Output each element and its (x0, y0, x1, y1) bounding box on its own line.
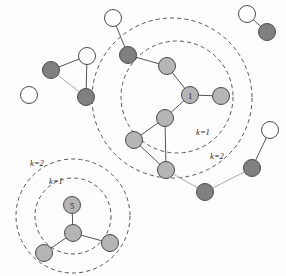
node-circle[interactable] (197, 184, 214, 201)
node-circle[interactable] (78, 89, 95, 106)
graph-node[interactable] (158, 162, 175, 179)
graph-node[interactable] (36, 245, 53, 262)
node-circle[interactable] (105, 10, 122, 27)
graph-nodes-layer: 15 (21, 6, 279, 262)
graph-node[interactable] (244, 160, 261, 177)
graph-node[interactable] (126, 132, 143, 149)
node-circle[interactable] (158, 162, 175, 179)
node-circle[interactable] (36, 245, 53, 262)
node-circle[interactable] (182, 87, 199, 104)
node-circle[interactable] (21, 87, 38, 104)
neighborhood-ring (35, 178, 111, 254)
node-circle[interactable] (157, 110, 174, 127)
graph-node[interactable] (259, 24, 276, 41)
ring-label: k=2 (30, 158, 45, 168)
graph-node[interactable] (79, 48, 96, 65)
graph-node[interactable] (197, 184, 214, 201)
graph-node[interactable] (78, 89, 95, 106)
ring-label: k=2 (210, 151, 225, 161)
graph-node[interactable] (21, 87, 38, 104)
graph-node[interactable] (239, 6, 256, 23)
node-circle[interactable] (213, 88, 230, 105)
node-circle[interactable] (79, 48, 96, 65)
node-circle[interactable] (262, 122, 279, 139)
ring-label: k=1 (49, 176, 63, 186)
graph-node[interactable] (120, 47, 137, 64)
node-circle[interactable] (65, 225, 82, 242)
node-circle[interactable] (239, 6, 256, 23)
neighborhood-ring (16, 159, 130, 273)
graph-node[interactable] (65, 225, 82, 242)
graph-svg: 15 k=1k=2k=1k=2 (0, 0, 286, 276)
diagram-canvas: 15 k=1k=2k=1k=2 (0, 0, 286, 276)
graph-node[interactable]: 1 (182, 87, 199, 104)
graph-node[interactable] (43, 62, 60, 79)
node-circle[interactable] (102, 235, 119, 252)
node-circle[interactable] (64, 197, 81, 214)
node-circle[interactable] (244, 160, 261, 177)
graph-node[interactable] (102, 235, 119, 252)
graph-node[interactable]: 5 (64, 197, 81, 214)
node-circle[interactable] (159, 58, 176, 75)
node-circle[interactable] (43, 62, 60, 79)
node-circle[interactable] (259, 24, 276, 41)
graph-node[interactable] (159, 58, 176, 75)
graph-node[interactable] (157, 110, 174, 127)
graph-node[interactable] (213, 88, 230, 105)
ring-label: k=1 (196, 127, 210, 137)
graph-node[interactable] (105, 10, 122, 27)
node-circle[interactable] (120, 47, 137, 64)
node-circle[interactable] (126, 132, 143, 149)
graph-node[interactable] (262, 122, 279, 139)
